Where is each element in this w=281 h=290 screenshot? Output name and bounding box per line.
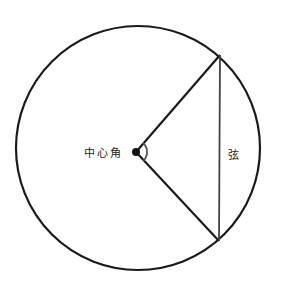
center-point [132,148,140,156]
chord-label: 弦 [228,148,239,162]
circle-outline [16,26,260,270]
radius-upper [136,55,220,152]
chord-line [219,55,220,241]
central-angle-label: 中心角 [84,147,123,160]
radius-lower [136,152,219,241]
angle-arc [143,143,147,161]
circle-diagram: 中心角 弦 [0,0,281,290]
